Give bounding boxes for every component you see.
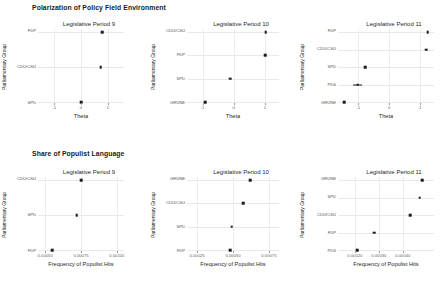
y-tick-labels: GRÜNESPDCDU/CSUFDPPDS xyxy=(306,177,338,253)
y-tick-label: GRÜNE xyxy=(306,177,336,181)
data-point xyxy=(101,31,104,34)
x-tick-mark xyxy=(233,251,234,253)
x-tick-label: 1 xyxy=(107,105,109,110)
y-axis-label: Parliamentary Group xyxy=(0,29,8,105)
panel-title: Legislative Period 11 xyxy=(346,21,442,27)
gridline-vertical xyxy=(117,177,118,253)
plot-area: Parliamentary GroupGRÜNESPDCDU/CSUFDPPDS xyxy=(298,177,447,253)
plot-canvas xyxy=(187,177,279,253)
x-tick-mark xyxy=(203,103,204,105)
x-tick-mark xyxy=(108,103,109,105)
data-point xyxy=(421,179,424,182)
x-tick-label: 0.00100 xyxy=(109,253,124,258)
y-axis-label: Parliamentary Group xyxy=(149,29,157,105)
data-point xyxy=(249,179,252,182)
panel-row: Legislative Period 9Parliamentary GroupF… xyxy=(0,11,447,119)
x-tick-label: 0.00020 xyxy=(347,253,362,258)
gridline-horizontal xyxy=(338,250,434,251)
x-tick-label: 0 xyxy=(388,105,390,110)
y-tick-label: FDP xyxy=(8,249,36,253)
x-tick-label: 1 xyxy=(264,105,266,110)
panel-title: Legislative Period 9 xyxy=(46,169,132,175)
panel-2-3: Legislative Period 11Parliamentary Group… xyxy=(298,157,447,267)
gridline-vertical xyxy=(358,29,359,105)
data-point xyxy=(264,54,267,57)
y-tick-label: GRÜNE xyxy=(157,101,185,105)
gridline-horizontal xyxy=(338,215,434,216)
x-tick-mark xyxy=(389,103,390,105)
y-tick-labels: GRÜNECDU/CSUSPDFDP xyxy=(157,177,187,253)
x-tick-mark xyxy=(81,251,82,253)
x-tick-label: 0.00025 xyxy=(189,253,204,258)
data-point xyxy=(242,202,245,205)
data-point xyxy=(364,66,367,69)
data-point xyxy=(229,77,232,80)
gridline-vertical xyxy=(420,29,421,105)
plot-canvas xyxy=(38,177,124,253)
y-tick-label: SPD xyxy=(306,65,336,69)
plot-canvas xyxy=(38,29,124,105)
x-tick-labels: 0.000200.000300.00040 xyxy=(338,253,434,261)
x-tick-mark xyxy=(403,251,404,253)
data-point xyxy=(230,225,233,228)
y-axis-label: Parliamentary Group xyxy=(149,177,157,253)
x-tick-mark xyxy=(379,251,380,253)
data-point xyxy=(409,214,412,217)
y-axis-label: Parliamentary Group xyxy=(298,177,306,253)
x-tick-label: 0.00050 xyxy=(225,253,240,258)
x-tick-mark xyxy=(45,251,46,253)
x-tick-label: -1 xyxy=(201,105,205,110)
x-tick-mark xyxy=(81,103,82,105)
data-point xyxy=(80,179,83,182)
panel-title: Legislative Period 10 xyxy=(195,169,287,175)
gridline-vertical xyxy=(197,177,198,253)
y-tick-label: CDU/CSU xyxy=(306,213,336,217)
data-point xyxy=(229,249,232,252)
x-tick-labels: -101 xyxy=(38,105,124,113)
data-point xyxy=(75,214,78,217)
y-tick-label: CDU/CSU xyxy=(8,65,36,69)
data-point xyxy=(343,101,346,104)
x-tick-label: -1 xyxy=(356,105,360,110)
chart-section-2: Share of Populist LanguageLegislative Pe… xyxy=(0,150,447,267)
panel-title: Legislative Period 10 xyxy=(195,21,287,27)
plot-canvas xyxy=(338,29,434,105)
y-tick-label: FDP xyxy=(8,29,36,33)
gridline-vertical xyxy=(81,29,82,105)
section-title: Polarization of Policy Field Environment xyxy=(32,4,447,11)
x-tick-label: 0.00075 xyxy=(261,253,276,258)
gridline-vertical xyxy=(54,29,55,105)
data-point xyxy=(425,48,428,51)
panel-title: Legislative Period 11 xyxy=(346,169,442,175)
x-tick-labels: -101 xyxy=(187,105,279,113)
section-title: Share of Populist Language xyxy=(32,150,447,157)
y-tick-label: FDP xyxy=(157,249,185,253)
x-axis-label: Frequency of Populist Hits xyxy=(338,261,434,267)
gridline-vertical xyxy=(45,177,46,253)
x-tick-label: 0.00040 xyxy=(395,253,410,258)
y-tick-label: CDU/CSU xyxy=(157,29,185,33)
x-tick-label: -1 xyxy=(52,105,56,110)
y-tick-labels: CDU/CSUFDPSPDGRÜNE xyxy=(157,29,187,105)
panel-1-1: Legislative Period 9Parliamentary GroupF… xyxy=(0,11,149,119)
gridline-vertical xyxy=(403,177,404,253)
x-tick-label: 0.00050 xyxy=(38,253,53,258)
gridline-horizontal xyxy=(338,233,434,234)
x-tick-mark xyxy=(234,103,235,105)
panel-2-1: Legislative Period 9Parliamentary GroupC… xyxy=(0,157,149,267)
y-tick-label: SPD xyxy=(306,195,336,199)
y-tick-label: CDU/CSU xyxy=(306,47,336,51)
y-tick-label: SPD xyxy=(157,225,185,229)
gridline-vertical xyxy=(269,177,270,253)
plot-canvas xyxy=(187,29,279,105)
panel-1-3: Legislative Period 11Parliamentary Group… xyxy=(298,11,447,119)
data-point xyxy=(204,101,207,104)
gridline-vertical xyxy=(81,177,82,253)
y-tick-label: SPD xyxy=(8,213,36,217)
data-point xyxy=(356,249,359,252)
x-axis-label: Theta xyxy=(187,113,279,119)
data-point xyxy=(418,196,421,199)
x-axis-label: Frequency of Populist Hits xyxy=(187,261,279,267)
x-tick-label: 0.00030 xyxy=(371,253,386,258)
x-tick-mark xyxy=(265,103,266,105)
